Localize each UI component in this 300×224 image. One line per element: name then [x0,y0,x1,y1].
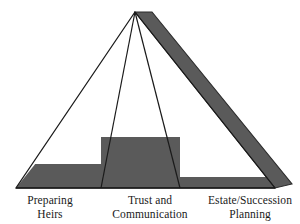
label-trust-communication-line-2: Communication [98,208,202,222]
segment-fill-trust-communication [101,137,180,188]
segment-fill-estate-succession [180,177,275,188]
label-estate-succession-line-2: Planning [202,208,298,222]
label-estate-succession-line-1: Estate/Succession [202,194,298,208]
label-preparing-heirs-line-1: Preparing [2,194,98,208]
label-preparing-heirs-line-2: Heirs [2,208,98,222]
label-preparing-heirs: Preparing Heirs [2,194,98,221]
segment-fill-preparing-heirs [16,164,101,188]
label-trust-communication-line-1: Trust and [98,194,202,208]
label-trust-communication: Trust and Communication [98,194,202,221]
pyramid-figure: Preparing Heirs Trust and Communication … [0,0,300,224]
label-estate-succession: Estate/Succession Planning [202,194,298,221]
segment-labels: Preparing Heirs Trust and Communication … [0,194,300,224]
pyramid-diagram [0,0,300,224]
